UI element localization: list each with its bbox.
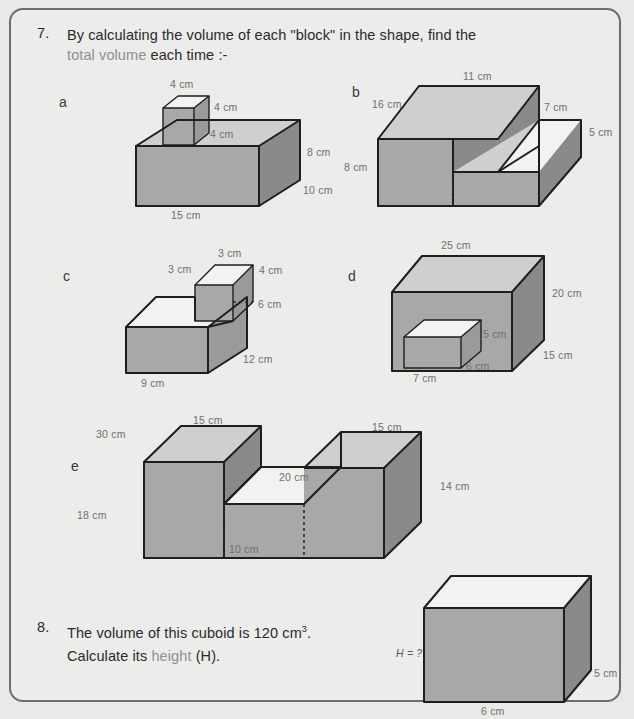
question-8-label-height: H = ? [396,647,422,659]
worksheet-border: 7. By calculating the volume of each "bl… [9,8,621,702]
question-8-cuboid-drawing [11,10,634,719]
question-8-label-width: 6 cm [481,705,505,717]
worksheet-page: 7. By calculating the volume of each "bl… [0,0,634,719]
question-8-label-depth: 5 cm [594,667,618,679]
